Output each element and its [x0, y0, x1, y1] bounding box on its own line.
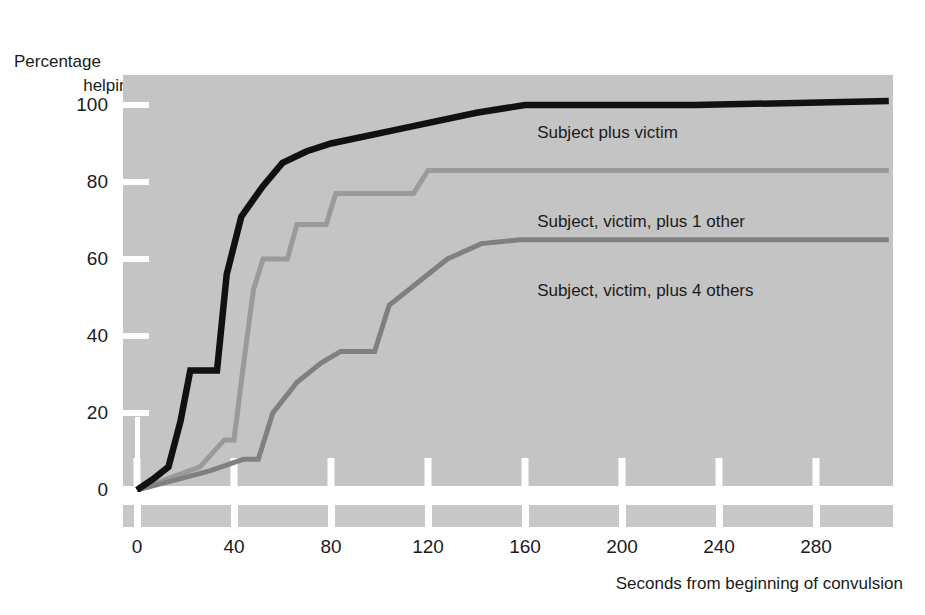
y-tick-label: 0 — [36, 480, 108, 499]
y-tick-mark — [123, 256, 149, 262]
x-tick-label: 280 — [781, 536, 851, 558]
y-tick-mark — [123, 333, 149, 339]
x-tick-label: 120 — [393, 536, 463, 558]
x-band-gap — [619, 505, 626, 527]
x-tick-label: 160 — [490, 536, 560, 558]
x-tick-label: 80 — [296, 536, 366, 558]
x-band-gap — [231, 505, 238, 527]
y-tick-label: 80 — [36, 172, 108, 191]
x-axis-title: Seconds from beginning of convulsion — [616, 574, 903, 594]
series-label-subject-plus-victim: Subject plus victim — [537, 123, 678, 143]
series-line-2 — [137, 170, 889, 490]
series-line-1 — [137, 101, 889, 490]
x-tick-label: 40 — [199, 536, 269, 558]
x-band-gap — [134, 505, 141, 527]
series-line-3 — [137, 240, 889, 490]
plot-svg — [123, 75, 893, 492]
x-band-gap — [813, 505, 820, 527]
series-label-subject-victim-plus-4-others: Subject, victim, plus 4 others — [537, 281, 753, 301]
y-axis-title-line1: Percentage — [14, 52, 101, 71]
y-tick-label: 40 — [36, 326, 108, 345]
y-tick-mark — [123, 410, 149, 416]
x-band-gap — [328, 505, 335, 527]
y-tick-mark — [123, 179, 149, 185]
x-band-gap — [716, 505, 723, 527]
axis-baseline — [123, 486, 893, 492]
x-band-gap — [522, 505, 529, 527]
y-tick-label: 100 — [36, 95, 108, 114]
x-tick-label: 0 — [102, 536, 172, 558]
y-tick-label: 20 — [36, 403, 108, 422]
x-band-gap — [425, 505, 432, 527]
y-tick-label: 60 — [36, 249, 108, 268]
x-tick-label: 240 — [684, 536, 754, 558]
series-label-subject-victim-plus-1-other: Subject, victim, plus 1 other — [537, 212, 745, 232]
y-tick-mark — [123, 102, 149, 108]
x-axis-band — [123, 505, 893, 527]
plot-area — [123, 75, 893, 492]
x-tick-label: 200 — [587, 536, 657, 558]
chart-figure: Percentage helping 100806040200 04080120… — [0, 0, 925, 615]
